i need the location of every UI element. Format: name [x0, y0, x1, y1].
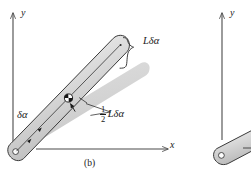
center-of-mass-symbol — [64, 94, 73, 103]
x-axis-label: x — [170, 140, 174, 150]
com-displacement-label-tail: Lδα — [108, 109, 124, 120]
right-panel-pivot-point — [219, 153, 225, 159]
tip-displacement-label: Lδα — [143, 36, 159, 47]
com-displacement-label: 1 2 Lδα — [100, 105, 124, 123]
right-panel-rod — [214, 120, 251, 164]
right-panel-y-axis-label: y — [230, 8, 234, 18]
y-axis-label: y — [21, 8, 25, 18]
physics-figure-panel-b: y x δα Lδα 1 2 Lδα (b) y — [0, 0, 251, 174]
fraction-numerator: 1 — [100, 105, 106, 114]
fraction-denominator: 2 — [100, 114, 106, 124]
figure-caption: (b) — [84, 159, 95, 169]
angle-label: δα — [17, 110, 27, 121]
figure-drawing — [0, 0, 251, 174]
one-half-fraction: 1 2 — [100, 105, 106, 123]
